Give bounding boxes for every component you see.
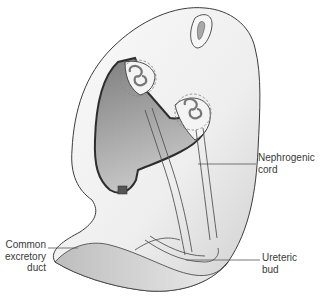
cloaca-marker <box>118 186 127 194</box>
label-line: Ureteric <box>262 252 297 264</box>
label-ureteric-bud: Ureteric bud <box>262 252 297 275</box>
label-line: bud <box>262 264 297 276</box>
label-line: cord <box>258 164 315 176</box>
label-line: duct <box>2 262 46 274</box>
label-line: Common <box>2 239 46 251</box>
label-nephrogenic-cord: Nephrogenic cord <box>258 152 315 175</box>
label-common-excretory-duct: Common excretory duct <box>2 239 46 274</box>
label-line: excretory <box>2 251 46 263</box>
label-line: Nephrogenic <box>258 152 315 164</box>
